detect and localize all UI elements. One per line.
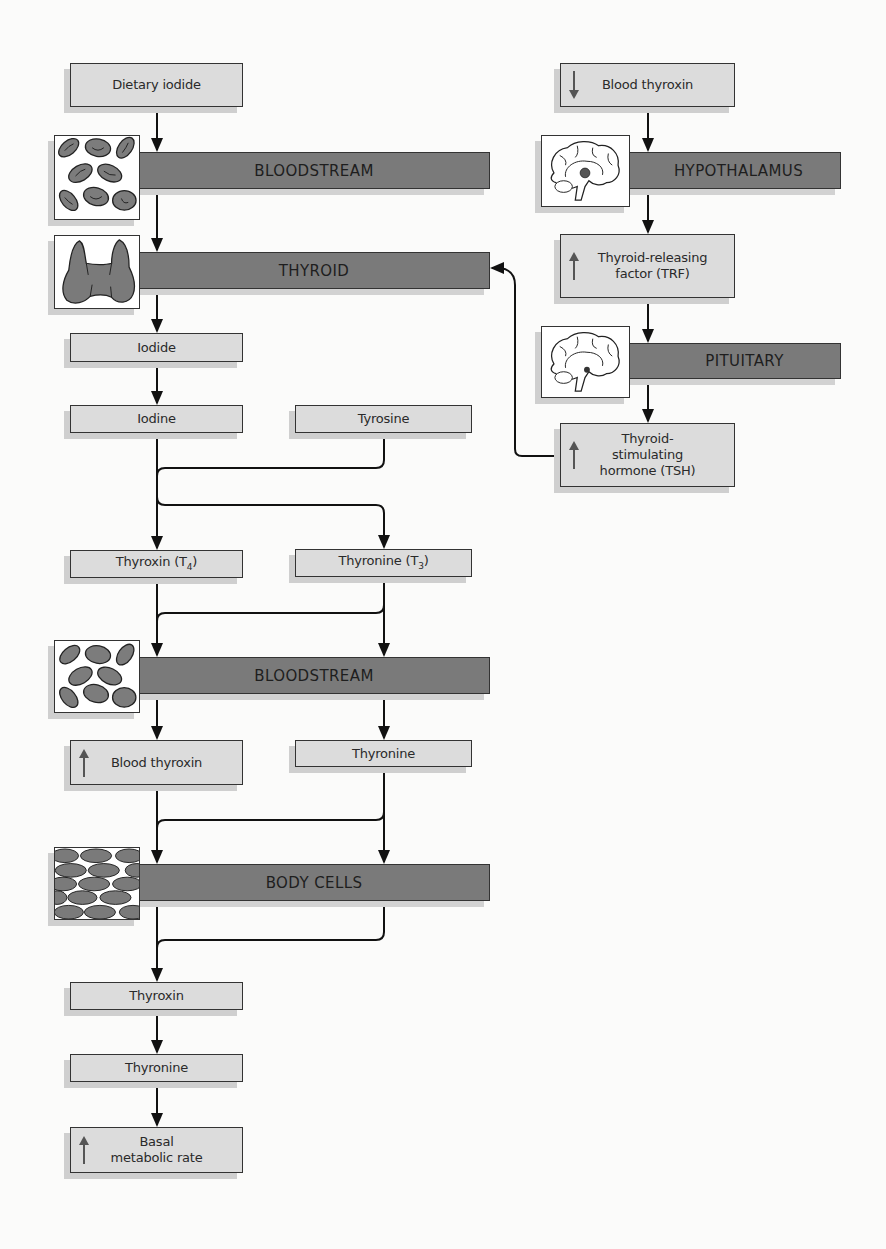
thyronine-t3-box: Thyronine (T3): [295, 549, 472, 577]
thyroid-label: THYROID: [279, 262, 350, 280]
thyronine-mid-label: Thyronine: [352, 746, 415, 762]
basal-metabolic-rate-box: Basal metabolic rate: [70, 1127, 243, 1173]
brain-hypothalamus-icon: [541, 135, 630, 207]
tsh-box: Thyroid- stimulating hormone (TSH): [560, 423, 735, 487]
bloodstream-bar-2: BLOODSTREAM: [138, 657, 490, 694]
tsh-label-line3: hormone (TSH): [600, 463, 696, 479]
bloodstream-label-1: BLOODSTREAM: [254, 162, 373, 180]
thyroid-bar: THYROID: [138, 252, 490, 289]
pituitary-label: PITUITARY: [685, 352, 784, 370]
thyroxin-final-label: Thyroxin: [129, 988, 183, 1004]
tsh-label-line1: Thyroid-: [622, 431, 674, 447]
blood-thyroxin-increase-box: Blood thyroxin: [70, 740, 243, 785]
up-arrow-icon: [569, 435, 579, 475]
thyronine-t3-label: Thyronine (T3): [338, 553, 428, 574]
trf-label-line2: factor (TRF): [605, 266, 689, 282]
tyrosine-box: Tyrosine: [295, 405, 472, 433]
up-arrow-icon: [79, 1136, 89, 1164]
up-arrow-icon: [79, 749, 89, 777]
trf-box: Thyroid-releasing factor (TRF): [560, 234, 735, 298]
dietary-iodide-box: Dietary iodide: [70, 63, 243, 107]
body-cells-label: BODY CELLS: [266, 874, 363, 892]
iodide-box: Iodide: [70, 333, 243, 362]
tsh-label-line2: stimulating: [612, 447, 683, 463]
iodine-label: Iodine: [137, 411, 176, 427]
thyroid-gland-icon: [54, 235, 140, 309]
thyroxin-t4-box: Thyroxin (T4): [70, 550, 243, 578]
hypothalamus-label: HYPOTHALAMUS: [666, 162, 803, 180]
thyronine-mid-box: Thyronine: [295, 740, 472, 767]
bloodstream-label-2: BLOODSTREAM: [254, 667, 373, 685]
body-cells-bar: BODY CELLS: [138, 864, 490, 901]
red-blood-cells-icon: [54, 135, 140, 220]
body-cells-tissue-icon: [54, 847, 140, 920]
blood-thyroxin-down-label: Blood thyroxin: [602, 77, 693, 93]
trf-label-line1: Thyroid-releasing: [588, 250, 708, 266]
thyroxin-final-box: Thyroxin: [70, 982, 243, 1010]
red-blood-cells-icon: [54, 640, 140, 713]
thyronine-final-label: Thyronine: [125, 1060, 188, 1076]
down-arrow-icon: [569, 71, 579, 99]
iodine-box: Iodine: [70, 405, 243, 433]
thyroxin-t4-label: Thyroxin (T4): [116, 554, 197, 575]
thyronine-final-box: Thyronine: [70, 1054, 243, 1082]
hypothalamus-bar: HYPOTHALAMUS: [628, 152, 841, 189]
blood-thyroxin-up-label: Blood thyroxin: [111, 755, 202, 771]
bloodstream-bar-1: BLOODSTREAM: [138, 152, 490, 189]
up-arrow-icon: [569, 246, 579, 286]
dietary-iodide-label: Dietary iodide: [112, 77, 201, 93]
basal-label-line1: Basal: [139, 1134, 173, 1150]
tyrosine-label: Tyrosine: [358, 411, 410, 427]
pituitary-bar: PITUITARY: [628, 343, 841, 379]
blood-thyroxin-decrease-box: Blood thyroxin: [560, 63, 735, 107]
iodide-label: Iodide: [137, 340, 176, 356]
brain-pituitary-icon: [541, 326, 630, 398]
basal-label-line2: metabolic rate: [110, 1150, 202, 1166]
